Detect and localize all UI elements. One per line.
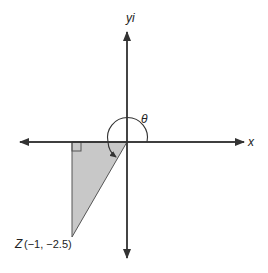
point-z-coords: (−1, −2.5)	[24, 238, 72, 250]
x-axis-label: x	[247, 135, 255, 149]
theta-label: θ	[141, 112, 148, 126]
y-axis-label: yi	[125, 11, 135, 25]
shaded-triangle	[72, 142, 127, 237]
point-z-name: Z	[14, 237, 23, 251]
complex-plane-diagram: yi x θ Z (−1, −2.5)	[0, 0, 268, 273]
